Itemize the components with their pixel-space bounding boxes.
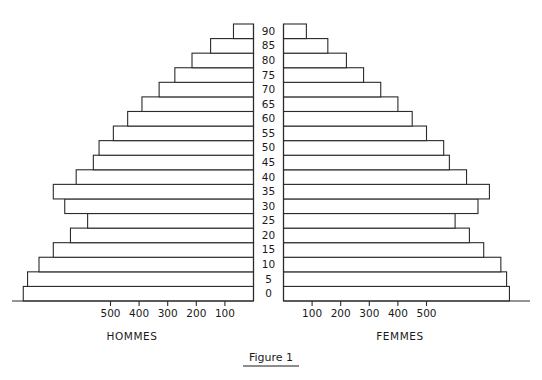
bar-femmes-20 <box>284 228 470 243</box>
bar-femmes-35 <box>284 184 490 199</box>
age-label-25: 25 <box>262 214 275 226</box>
bar-hommes-90 <box>233 24 253 39</box>
age-label-75: 75 <box>262 69 275 81</box>
age-label-90: 90 <box>262 25 275 37</box>
bar-femmes-25 <box>284 214 456 229</box>
tick-label-femmes-400: 400 <box>388 307 408 319</box>
hommes-axis-ticks: 500400300200100 <box>100 301 234 319</box>
femmes-label: FEMMES <box>376 330 424 342</box>
age-label-35: 35 <box>262 185 275 197</box>
bar-hommes-20 <box>70 228 253 243</box>
population-pyramid-figure: 051015202530354045505560657075808590 500… <box>0 0 542 380</box>
bar-hommes-65 <box>142 97 254 112</box>
age-label-70: 70 <box>262 83 275 95</box>
tick-label-hommes-300: 300 <box>158 307 178 319</box>
bar-femmes-80 <box>284 53 347 68</box>
bar-femmes-45 <box>284 155 450 170</box>
bar-femmes-55 <box>284 126 427 141</box>
bar-femmes-60 <box>284 111 413 126</box>
bar-femmes-10 <box>284 257 501 272</box>
bar-femmes-90 <box>284 24 307 39</box>
tick-label-hommes-400: 400 <box>129 307 149 319</box>
tick-label-femmes-200: 200 <box>331 307 351 319</box>
bar-hommes-15 <box>53 243 253 258</box>
tick-label-hommes-500: 500 <box>100 307 120 319</box>
tick-label-femmes-500: 500 <box>416 307 436 319</box>
age-label-5: 5 <box>265 273 272 285</box>
age-label-30: 30 <box>262 200 275 212</box>
femmes-bars-group <box>284 24 510 301</box>
age-label-45: 45 <box>262 156 275 168</box>
bar-femmes-5 <box>284 272 507 287</box>
tick-label-femmes-300: 300 <box>359 307 379 319</box>
age-label-65: 65 <box>262 98 275 110</box>
age-label-10: 10 <box>262 258 275 270</box>
bar-femmes-70 <box>284 82 381 97</box>
bar-hommes-75 <box>175 68 254 83</box>
pyramid-chart-canvas: 051015202530354045505560657075808590 500… <box>0 0 542 380</box>
bar-femmes-0 <box>284 286 510 301</box>
age-label-60: 60 <box>262 112 275 124</box>
age-label-80: 80 <box>262 54 275 66</box>
age-label-50: 50 <box>262 141 275 153</box>
bar-hommes-40 <box>76 170 253 185</box>
bar-hommes-50 <box>99 141 253 156</box>
bar-hommes-45 <box>93 155 253 170</box>
age-label-15: 15 <box>262 243 275 255</box>
bar-hommes-35 <box>53 184 253 199</box>
hommes-label: HOMMES <box>106 330 157 342</box>
bar-femmes-50 <box>284 141 444 156</box>
figure-caption: Figure 1 <box>249 351 293 364</box>
bar-hommes-0 <box>23 286 253 301</box>
hommes-bars-group <box>23 24 253 301</box>
bar-hommes-60 <box>128 111 254 126</box>
age-label-40: 40 <box>262 171 275 183</box>
bar-femmes-40 <box>284 170 467 185</box>
bar-hommes-55 <box>113 126 253 141</box>
age-group-labels: 051015202530354045505560657075808590 <box>262 25 275 299</box>
age-label-55: 55 <box>262 127 275 139</box>
tick-label-hommes-100: 100 <box>215 307 235 319</box>
age-label-85: 85 <box>262 39 275 51</box>
bar-hommes-25 <box>88 214 254 229</box>
tick-label-femmes-100: 100 <box>302 307 322 319</box>
bar-hommes-30 <box>65 199 254 214</box>
age-label-0: 0 <box>265 287 272 299</box>
bar-hommes-85 <box>211 39 254 54</box>
bar-hommes-80 <box>192 53 253 68</box>
femmes-axis-ticks: 100200300400500 <box>302 301 436 319</box>
bar-femmes-75 <box>284 68 364 83</box>
bar-femmes-15 <box>284 243 484 258</box>
bar-hommes-10 <box>39 257 254 272</box>
bar-hommes-70 <box>159 82 253 97</box>
tick-label-hommes-200: 200 <box>186 307 206 319</box>
bar-femmes-85 <box>284 39 328 54</box>
bar-femmes-30 <box>284 199 478 214</box>
bar-hommes-5 <box>28 272 254 287</box>
age-label-20: 20 <box>262 229 275 241</box>
bar-femmes-65 <box>284 97 398 112</box>
